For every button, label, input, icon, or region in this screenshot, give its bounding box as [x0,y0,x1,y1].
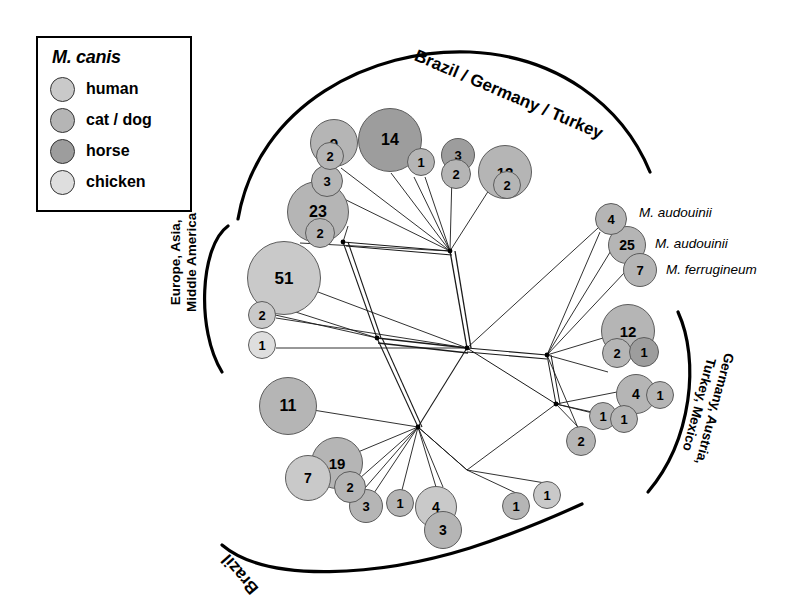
haplotype-node-n9i: 2 [316,142,344,170]
haplotype-node-n1b: 1 [248,331,276,359]
haplotype-node-n1u: 1 [610,405,638,433]
legend-label-chicken: chicken [86,173,146,191]
haplotype-node-value: 51 [275,270,294,287]
haplotype-node-n2r: 2 [602,338,632,368]
haplotype-node-value: 12 [620,324,637,339]
legend-title: M. canis [52,47,180,68]
haplotype-node-value: 7 [304,471,312,485]
haplotype-node-value: 11 [280,398,297,414]
haplotype-node-value: 7 [636,264,643,277]
network-hub-h_mid [375,336,380,341]
haplotype-node-value: 1 [258,339,265,352]
haplotype-node-n2s: 2 [566,426,596,456]
haplotype-node-n1w: 1 [502,492,530,520]
haplotype-node-n1r: 1 [629,337,659,367]
haplotype-node-value: 2 [452,168,459,181]
legend-label-cat-dog: cat / dog [86,111,152,129]
haplotype-node-n3bi: 2 [441,159,471,189]
legend-swatch-cat-dog [50,108,75,133]
haplotype-node-value: 1 [599,410,606,423]
haplotype-node-value: 2 [577,435,584,448]
haplotype-node-n1v: 1 [386,489,414,517]
haplotype-network-figure: M. canis human cat / dog horse chicken 5… [0,0,789,616]
haplotype-node-n23i: 2 [305,218,335,248]
haplotype-node-n1x: 1 [533,481,561,509]
legend-item-human: human [50,74,180,104]
legend-label-horse: horse [86,142,130,160]
network-hub-h_upleft [341,240,346,245]
haplotype-node-value: 14 [381,132,399,148]
haplotype-node-n1a: 1 [407,148,435,176]
network-hub-h_low [416,425,421,430]
legend-swatch-horse [50,139,75,164]
haplotype-node-value: 1 [417,156,424,169]
group-label-europe-line2: Middle America [184,213,199,312]
haplotype-node-value: 1 [620,413,627,426]
species-label-audouinii-2: M. audouinii [655,236,728,251]
species-label-audouinii-1: M. audouinii [639,205,712,220]
group-label-europe-asia-middle-america: Europe, Asia, Middle America [168,197,201,327]
haplotype-node-n3d: 3 [424,511,462,549]
haplotype-node-value: 2 [316,227,323,240]
legend: M. canis human cat / dog horse chicken [36,36,192,212]
haplotype-node-n2a: 2 [248,301,276,329]
legend-swatch-human [50,77,75,102]
haplotype-node-value: 2 [613,347,620,360]
network-hub-h_rlow [554,402,559,407]
haplotype-node-n2b: 2 [334,471,366,503]
haplotype-node-value: 2 [346,481,353,494]
haplotype-node-n7r: 7 [623,253,657,287]
legend-item-horse: horse [50,136,180,166]
network-hub-h_top [448,249,453,254]
haplotype-node-value: 1 [543,489,550,502]
legend-item-cat-dog: cat / dog [50,105,180,135]
haplotype-node-n11: 11 [259,377,317,435]
haplotype-node-value: 1 [512,500,519,513]
network-hub-h_center [465,346,470,351]
haplotype-node-value: 4 [632,387,640,401]
species-label-ferrugineum: M. ferrugineum [666,262,757,277]
haplotype-node-value: 19 [329,456,346,471]
haplotype-node-n4r: 4 [595,203,627,235]
legend-label-human: human [86,80,138,98]
haplotype-node-value: 1 [656,389,663,402]
haplotype-node-value: 1 [396,497,403,510]
haplotype-node-value: 25 [619,238,635,252]
haplotype-node-value: 3 [439,523,447,537]
haplotype-node-value: 1 [640,346,647,359]
network-hub-h_right [545,353,550,358]
legend-swatch-chicken [50,170,75,195]
group-label-europe-line1: Europe, Asia, [168,220,183,306]
haplotype-node-value: 4 [607,213,614,226]
haplotype-node-value: 2 [503,179,510,192]
haplotype-node-value: 2 [258,309,265,322]
haplotype-node-n12ai: 2 [493,171,521,199]
haplotype-node-value: 2 [326,150,333,163]
haplotype-node-n7b: 7 [285,455,331,501]
haplotype-node-n1s: 1 [646,381,674,409]
haplotype-node-value: 3 [362,500,369,513]
haplotype-node-value: 3 [323,175,330,188]
legend-item-chicken: chicken [50,167,180,197]
